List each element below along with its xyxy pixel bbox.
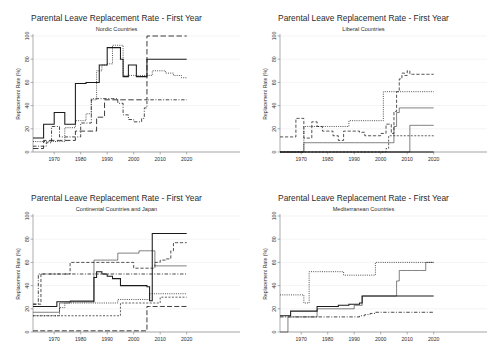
y-axis-label: Replacement Rate (%) [262, 247, 268, 299]
y-tick-label: 60 [24, 259, 30, 265]
x-tick-label: 1970 [295, 335, 306, 341]
panel-title: Parental Leave Replacement Rate - First … [31, 13, 202, 23]
x-tick-label: 1970 [295, 156, 306, 162]
x-tick-label: 1970 [49, 156, 60, 162]
x-tick-label: 2020 [181, 335, 192, 341]
chart-panel-liberal: Parental Leave Replacement Rate - First … [247, 0, 493, 180]
x-tick-label: 1990 [348, 156, 359, 162]
x-tick-label: 1990 [102, 156, 113, 162]
x-tick-label: 2000 [128, 335, 139, 341]
y-tick-label: 80 [24, 56, 30, 62]
chart-panel-nordic: Parental Leave Replacement Rate - First … [0, 0, 247, 180]
x-tick-label: 2010 [401, 335, 412, 341]
y-tick-label: 40 [270, 282, 276, 288]
y-axis-label: Replacement Rate (%) [262, 68, 268, 120]
chart-panel-continental: Parental Leave Replacement Rate - First … [0, 180, 247, 359]
panel-title: Parental Leave Replacement Rate - First … [31, 193, 202, 203]
y-tick-label: 20 [24, 126, 30, 132]
y-tick-label: 0 [24, 330, 30, 333]
y-tick-label: 60 [270, 259, 276, 265]
y-tick-label: 60 [24, 79, 30, 85]
x-tick-label: 2020 [428, 335, 439, 341]
x-tick-label: 2000 [375, 335, 386, 341]
y-tick-label: 40 [270, 103, 276, 109]
y-tick-label: 100 [270, 32, 276, 41]
y-axis-label: Replacement Rate (%) [15, 247, 21, 299]
x-tick-label: 2020 [181, 156, 192, 162]
y-tick-label: 80 [270, 236, 276, 242]
y-axis-label: Replacement Rate (%) [15, 68, 21, 120]
panel-subtitle: Nordic Countries [96, 26, 138, 32]
panel-subtitle: Continental Countries and Japan [76, 206, 157, 212]
y-tick-label: 100 [24, 211, 30, 220]
y-tick-label: 0 [24, 150, 30, 153]
y-tick-label: 20 [270, 126, 276, 132]
y-tick-label: 20 [270, 305, 276, 311]
x-tick-label: 2010 [401, 156, 412, 162]
x-tick-label: 2000 [375, 156, 386, 162]
x-tick-label: 1980 [75, 156, 86, 162]
x-tick-label: 1980 [322, 335, 333, 341]
x-tick-label: 2010 [155, 156, 166, 162]
x-tick-label: 2010 [155, 335, 166, 341]
y-tick-label: 100 [270, 211, 276, 220]
panel-subtitle: Mediterranean Countries [332, 206, 394, 212]
y-tick-label: 80 [24, 236, 30, 242]
x-tick-label: 1990 [348, 335, 359, 341]
y-tick-label: 40 [24, 282, 30, 288]
y-tick-label: 40 [24, 103, 30, 109]
x-tick-label: 2020 [428, 156, 439, 162]
y-tick-label: 20 [24, 305, 30, 311]
x-tick-label: 2000 [128, 156, 139, 162]
x-tick-label: 1980 [322, 156, 333, 162]
panel-title: Parental Leave Replacement Rate - First … [278, 13, 449, 23]
y-tick-label: 0 [270, 150, 276, 153]
y-tick-label: 100 [24, 32, 30, 41]
y-tick-label: 80 [270, 56, 276, 62]
x-tick-label: 1970 [49, 335, 60, 341]
figure-grid: Parental Leave Replacement Rate - First … [0, 0, 493, 359]
chart-panel-mediterranean: Parental Leave Replacement Rate - First … [247, 180, 493, 359]
x-tick-label: 1990 [102, 335, 113, 341]
y-tick-label: 60 [270, 79, 276, 85]
x-tick-label: 1980 [75, 335, 86, 341]
panel-subtitle: Liberal Countries [342, 26, 384, 32]
panel-title: Parental Leave Replacement Rate - First … [278, 193, 449, 203]
y-tick-label: 0 [270, 330, 276, 333]
